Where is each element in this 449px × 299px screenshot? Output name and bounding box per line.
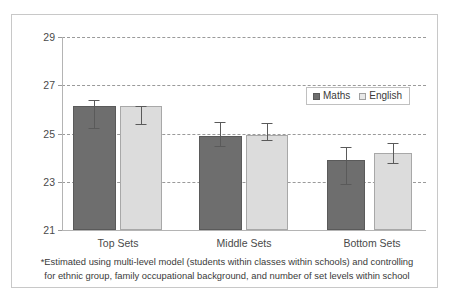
chart-figure: 29 27 25 23 21 Top Sets Middle bbox=[11, 14, 438, 288]
errorbar-cap-lower-maths-middle-sets bbox=[215, 146, 226, 147]
legend-item-maths[interactable]: Maths bbox=[313, 91, 350, 101]
y-axis-label-25: 25 bbox=[43, 129, 55, 140]
bar-english-bottom-sets[interactable] bbox=[374, 153, 412, 230]
plot-area: 29 27 25 23 21 Top Sets Middle bbox=[62, 37, 426, 231]
y-axis-line bbox=[62, 37, 63, 231]
errorbar-english-middle-sets bbox=[267, 123, 268, 140]
errorbar-cap-upper-maths-middle-sets bbox=[215, 122, 226, 123]
x-axis-label-top-sets: Top Sets bbox=[98, 237, 139, 249]
y-axis-label-29: 29 bbox=[43, 32, 55, 43]
errorbar-english-bottom-sets bbox=[393, 143, 394, 163]
errorbar-cap-lower-maths-top-sets bbox=[89, 128, 100, 129]
errorbar-cap-lower-english-top-sets bbox=[136, 124, 147, 125]
legend-item-english[interactable]: English bbox=[359, 91, 402, 101]
errorbar-maths-top-sets bbox=[94, 100, 95, 128]
legend-label-maths: Maths bbox=[323, 91, 350, 101]
gridline-27 bbox=[62, 85, 426, 86]
x-axis-label-middle-sets: Middle Sets bbox=[217, 237, 272, 249]
gridline-23 bbox=[62, 182, 426, 183]
gridline-29 bbox=[62, 37, 426, 38]
errorbar-cap-lower-maths-bottom-sets bbox=[341, 184, 352, 185]
y-axis-label-27: 27 bbox=[43, 80, 55, 91]
legend-label-english: English bbox=[369, 91, 402, 101]
legend-swatch-maths-icon bbox=[313, 93, 320, 100]
y-axis-label-23: 23 bbox=[43, 177, 55, 188]
errorbar-maths-middle-sets bbox=[220, 122, 221, 146]
errorbar-cap-lower-english-bottom-sets bbox=[388, 163, 399, 164]
x-axis-line bbox=[62, 230, 426, 231]
errorbar-cap-upper-maths-top-sets bbox=[89, 100, 100, 101]
errorbar-cap-upper-english-top-sets bbox=[136, 106, 147, 107]
footnote-line-1: *Estimated using multi-level model (stud… bbox=[34, 255, 420, 269]
legend-swatch-english-icon bbox=[359, 93, 366, 100]
errorbar-cap-upper-english-middle-sets bbox=[262, 123, 273, 124]
chart-legend: Maths English bbox=[306, 87, 410, 105]
errorbar-cap-upper-english-bottom-sets bbox=[388, 143, 399, 144]
errorbar-english-top-sets bbox=[141, 106, 142, 124]
y-axis-label-21: 21 bbox=[43, 225, 55, 236]
errorbar-cap-lower-english-middle-sets bbox=[262, 140, 273, 141]
footnote-line-2: for ethnic group, family occupational ba… bbox=[34, 269, 420, 283]
chart-footnote: *Estimated using multi-level model (stud… bbox=[34, 255, 420, 283]
errorbar-maths-bottom-sets bbox=[346, 147, 347, 184]
errorbar-cap-upper-maths-bottom-sets bbox=[341, 147, 352, 148]
gridline-25 bbox=[62, 134, 426, 135]
bar-english-middle-sets[interactable] bbox=[246, 135, 288, 230]
bar-maths-middle-sets[interactable] bbox=[199, 136, 242, 230]
x-axis-label-bottom-sets: Bottom Sets bbox=[343, 237, 400, 249]
